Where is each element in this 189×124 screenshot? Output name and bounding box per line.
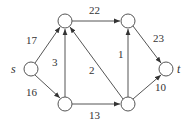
- capacity-s-v3: 16: [26, 86, 38, 98]
- capacity-s-v1: 17: [26, 34, 38, 46]
- source-label: s: [11, 62, 16, 76]
- node-t: [159, 62, 173, 76]
- node-v1: [58, 14, 72, 28]
- capacity-v4-v1: 2: [89, 64, 95, 76]
- flow-network-diagram: s t 17 16 3 2 22 1 13 23 10: [0, 0, 189, 124]
- capacity-v1-v2: 22: [89, 4, 100, 16]
- node-s: [24, 62, 38, 76]
- capacity-v3-v1: 3: [52, 56, 58, 68]
- sink-label: t: [177, 62, 181, 76]
- node-v3: [58, 97, 72, 111]
- capacity-v4-t: 10: [155, 81, 167, 93]
- node-v4: [121, 97, 135, 111]
- edge-s-v3: [35, 75, 60, 98]
- capacity-v2-t: 23: [153, 32, 165, 44]
- capacity-v3-v4: 13: [89, 109, 101, 121]
- capacity-v4-v2: 1: [118, 48, 124, 60]
- node-v2: [121, 14, 135, 28]
- edge-v4-v1: [70, 27, 123, 99]
